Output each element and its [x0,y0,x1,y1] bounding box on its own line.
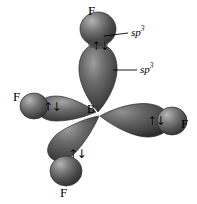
electron-pair-arrows-top: ↑↓ [91,40,108,52]
sp3-annotation-lower-exponent: 3 [150,61,154,70]
sp3-annotation-upper-exponent: 3 [141,24,145,33]
sp3-annotation-lower-text: sp [140,63,150,75]
bond-group-right [100,104,187,138]
boron-sp3-lobe-top [79,44,117,112]
sp3-annotation-lower: sp3 [140,64,154,75]
fluorine-label-bottom: F [60,186,67,199]
orbital-diagram-figure: F F F F B sp3 sp3 ↑↓ ↑↓ ↑↓ ↑↓ [0,0,197,204]
fluorine-label-top: F [88,4,95,17]
electron-pair-arrows-bottom: ↑↓ [68,148,85,160]
bond-group-top [79,12,117,112]
fluorine-label-left: F [13,90,20,103]
sp3-annotation-upper-text: sp [131,26,141,38]
electron-pair-arrows-left: ↑↓ [43,101,60,113]
orbital-graphics [0,0,197,204]
central-atom-boron-label: B [87,103,95,115]
fluorine-label-right: F [181,117,188,130]
electron-pair-arrows-right: ↑↓ [147,115,164,127]
sp3-annotation-upper: sp3 [131,27,145,38]
